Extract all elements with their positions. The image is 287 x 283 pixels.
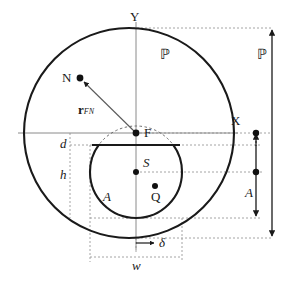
dimension-label-d: d [60, 137, 67, 150]
diagram-canvas: Y X ℙ ℙ N F S Q A A d h w δ rFN [0, 0, 287, 283]
tick-dot-A-mid [253, 169, 259, 175]
x-axis-label: X [231, 114, 240, 127]
point-label-Q: Q [151, 190, 160, 203]
dimension-label-w: w [132, 259, 141, 272]
vector-label-subscript: FN [84, 107, 94, 116]
point-F [133, 130, 140, 137]
y-axis-label: Y [130, 10, 139, 23]
point-label-S: S [143, 156, 150, 169]
point-S [133, 169, 139, 175]
tick-dot-A-top [253, 130, 259, 136]
point-label-N: N [62, 71, 71, 84]
point-N [77, 75, 84, 82]
diagram-svg [0, 0, 287, 283]
dimension-label-A: A [245, 186, 253, 199]
dimension-label-h: h [60, 168, 67, 181]
axes [18, 22, 238, 250]
region-label-A: A [103, 190, 111, 203]
dimension-label-delta: δ [159, 236, 165, 249]
dimension-label-P: ℙ [257, 48, 267, 62]
region-label-P: ℙ [160, 48, 170, 62]
point-label-F: F [144, 126, 151, 139]
vector-label-rFN: rFN [78, 101, 94, 117]
